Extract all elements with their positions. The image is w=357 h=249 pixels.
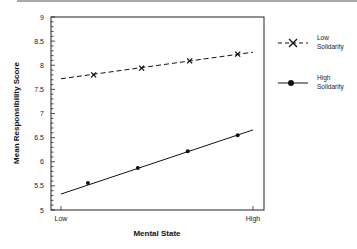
legend-item: HighSolidarity [278, 74, 344, 91]
fit-line [61, 130, 253, 194]
legend-item: LowSolidarity [278, 34, 344, 51]
x-tick-label: Low [55, 215, 69, 222]
dot-marker-icon [288, 80, 294, 86]
y-tick-label: 7.5 [34, 86, 44, 93]
legend-label: Solidarity [317, 83, 344, 91]
dot-marker-icon [86, 181, 90, 185]
x-tick-label: High [246, 215, 261, 223]
y-axis-ticks [51, 17, 55, 210]
y-axis-title: Mean Responsibility Score [12, 62, 21, 164]
y-tick-label: 7 [40, 110, 44, 117]
fit-line [61, 52, 253, 79]
x-axis-title: Mental State [133, 229, 181, 238]
y-tick-label: 9 [40, 14, 44, 21]
dot-marker-icon [236, 133, 240, 137]
y-axis-tick-labels: 55.566.577.588.59 [34, 14, 44, 214]
y-tick-label: 8.5 [34, 38, 44, 45]
legend-label: Solidarity [317, 43, 344, 51]
legend-label: High [317, 74, 331, 82]
y-tick-label: 6 [40, 158, 44, 165]
series-high-solidarity [61, 130, 253, 194]
legend-label: Low [317, 34, 329, 41]
series-low-solidarity [61, 52, 253, 79]
y-tick-label: 6.5 [34, 134, 44, 141]
y-tick-label: 8 [40, 62, 44, 69]
legend: LowSolidarityHighSolidarity [278, 34, 344, 91]
series-group [61, 52, 253, 194]
y-tick-label: 5 [40, 207, 44, 214]
chart: 55.566.577.588.59 LowHigh Mean Responsib… [0, 0, 357, 249]
dot-marker-icon [136, 166, 140, 170]
x-axis-ticks: LowHigh [55, 206, 261, 223]
plot-frame [51, 17, 264, 210]
y-tick-label: 5.5 [34, 182, 44, 189]
dot-marker-icon [186, 149, 190, 153]
